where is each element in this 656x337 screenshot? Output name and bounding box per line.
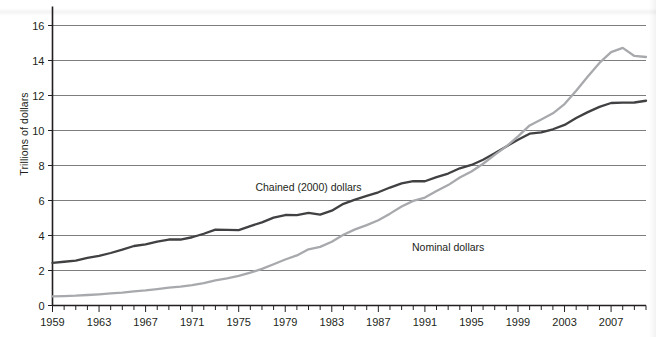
y-tick-label: 2 (38, 265, 44, 277)
chart-plot-area: 0246810121416 19591963196719711975197919… (0, 0, 656, 337)
series-label: Nominal dollars (412, 241, 484, 253)
x-tick-label: 1999 (506, 316, 530, 328)
x-axis-ticks: 1959196319671971197519791983198719911995… (40, 306, 646, 328)
data-series (53, 48, 647, 297)
y-tick-label: 10 (32, 125, 44, 137)
gdp-line-chart: Trillions of dollars 0246810121416 19591… (0, 0, 656, 337)
series-labels: Chained (2000) dollarsNominal dollars (255, 181, 484, 253)
x-tick-label: 1959 (40, 316, 64, 328)
series-label: Chained (2000) dollars (255, 181, 361, 193)
x-tick-label: 2007 (599, 316, 623, 328)
x-tick-label: 1995 (459, 316, 483, 328)
axis-lines (53, 7, 647, 306)
y-tick-label: 4 (38, 230, 44, 242)
x-tick-label: 1983 (320, 316, 344, 328)
y-tick-label: 0 (38, 300, 44, 312)
gridlines (53, 26, 647, 306)
x-tick-label: 1979 (273, 316, 297, 328)
y-tick-label: 6 (38, 195, 44, 207)
x-tick-label: 1963 (87, 316, 111, 328)
y-tick-label: 16 (32, 20, 44, 32)
x-tick-label: 1971 (180, 316, 204, 328)
x-tick-label: 2003 (552, 316, 576, 328)
x-tick-label: 1967 (133, 316, 157, 328)
y-axis-ticks: 0246810121416 (32, 20, 52, 312)
x-tick-label: 1987 (366, 316, 390, 328)
y-tick-label: 8 (38, 160, 44, 172)
x-tick-label: 1975 (226, 316, 250, 328)
y-tick-label: 12 (32, 90, 44, 102)
x-tick-label: 1991 (413, 316, 437, 328)
series-line (53, 48, 647, 297)
y-tick-label: 14 (32, 55, 44, 67)
